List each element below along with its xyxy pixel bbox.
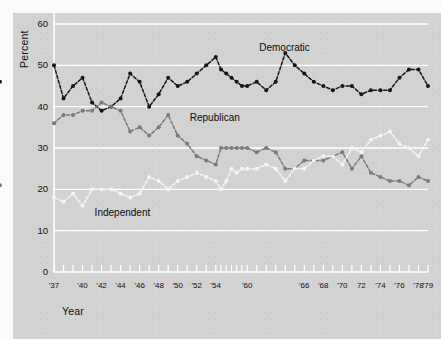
y-tick-label: 60 — [22, 18, 48, 29]
series-marker-independent — [219, 187, 223, 191]
chart-figure: Percent Year 6050403020100 '37'40'42'44'… — [0, 0, 441, 339]
series-marker-independent — [350, 146, 354, 150]
series-marker-republican — [274, 150, 278, 154]
series-marker-republican — [185, 142, 189, 146]
series-marker-republican — [426, 179, 430, 183]
series-marker-independent — [100, 187, 104, 191]
series-marker-democratic — [388, 88, 392, 92]
series-marker-independent — [359, 150, 363, 154]
series-marker-democratic — [52, 63, 56, 67]
series-marker-democratic — [426, 84, 430, 88]
series-marker-democratic — [90, 101, 94, 105]
series-marker-independent — [62, 200, 66, 204]
series-marker-independent — [293, 167, 297, 171]
series-marker-republican — [157, 125, 161, 129]
series-marker-democratic — [416, 67, 420, 71]
series-marker-independent — [166, 187, 170, 191]
series-marker-democratic — [235, 80, 239, 84]
series-marker-republican — [71, 113, 75, 117]
series-marker-democratic — [62, 96, 66, 100]
y-tick-label: 30 — [22, 142, 48, 153]
series-marker-democratic — [312, 80, 316, 84]
series-marker-republican — [416, 175, 420, 179]
series-marker-republican — [219, 146, 223, 150]
series-marker-democratic — [245, 84, 249, 88]
series-marker-independent — [147, 175, 151, 179]
series-marker-democratic — [293, 63, 297, 67]
series-marker-republican — [138, 125, 142, 129]
series-annotation: Republican — [190, 112, 240, 123]
series-marker-republican — [0, 183, 2, 187]
series-marker-republican — [378, 175, 382, 179]
series-marker-independent — [312, 158, 316, 162]
series-marker-republican — [240, 146, 244, 150]
series-marker-republican — [407, 183, 411, 187]
series-marker-independent — [128, 196, 132, 200]
series-marker-independent — [176, 179, 180, 183]
series-marker-independent — [71, 191, 75, 195]
series-marker-republican — [321, 158, 325, 162]
series-marker-independent — [52, 196, 56, 200]
series-marker-independent — [302, 167, 306, 171]
series-marker-democratic — [350, 84, 354, 88]
series-marker-republican — [214, 163, 218, 167]
series-marker-independent — [416, 154, 420, 158]
series-marker-democratic — [119, 96, 123, 100]
series-marker-independent — [185, 175, 189, 179]
series-marker-democratic — [147, 105, 151, 109]
series-marker-independent — [369, 138, 373, 142]
series-marker-democratic — [166, 76, 170, 80]
series-marker-independent — [426, 138, 430, 142]
series-marker-republican — [229, 146, 233, 150]
series-marker-independent — [397, 142, 401, 146]
series-line-democratic — [54, 53, 428, 111]
series-marker-independent — [283, 179, 287, 183]
series-marker-independent — [407, 146, 411, 150]
series-marker-independent — [90, 187, 94, 191]
series-marker-independent — [331, 154, 335, 158]
series-marker-republican — [340, 150, 344, 154]
series-marker-republican — [302, 158, 306, 162]
series-marker-independent — [255, 167, 259, 171]
y-tick-label: 10 — [22, 225, 48, 236]
series-marker-republican — [255, 150, 259, 154]
series-marker-republican — [166, 113, 170, 117]
series-marker-independent — [138, 191, 142, 195]
series-marker-democratic — [397, 76, 401, 80]
series-marker-independent — [264, 163, 268, 167]
series-marker-democratic — [340, 84, 344, 88]
series-marker-republican — [128, 129, 132, 133]
series-marker-republican — [195, 154, 199, 158]
series-marker-democratic — [378, 88, 382, 92]
series-marker-democratic — [407, 67, 411, 71]
series-marker-independent — [229, 167, 233, 171]
series-marker-democratic — [274, 80, 278, 84]
series-marker-independent — [81, 204, 85, 208]
series-marker-republican — [119, 109, 123, 113]
series-marker-republican — [388, 179, 392, 183]
y-tick-label: 50 — [22, 59, 48, 70]
x-tick-label: '79 — [417, 281, 439, 290]
series-marker-democratic — [176, 84, 180, 88]
series-marker-democratic — [229, 76, 233, 80]
series-marker-democratic — [71, 84, 75, 88]
series-marker-republican — [100, 101, 104, 105]
series-marker-independent — [235, 171, 239, 175]
series-marker-independent — [214, 179, 218, 183]
series-marker-democratic — [331, 88, 335, 92]
series-marker-independent — [321, 154, 325, 158]
series-marker-democratic — [81, 76, 85, 80]
series-marker-republican — [62, 113, 66, 117]
series-marker-independent — [388, 129, 392, 133]
series-marker-republican — [359, 154, 363, 158]
series-marker-independent — [157, 179, 161, 183]
series-marker-democratic — [128, 72, 132, 76]
series-marker-independent — [204, 175, 208, 179]
series-marker-republican — [264, 146, 268, 150]
series-marker-republican — [397, 179, 401, 183]
series-marker-republican — [369, 171, 373, 175]
series-marker-democratic — [240, 84, 244, 88]
x-tick-label: '60 — [236, 281, 258, 290]
x-tick-label: '37 — [43, 281, 65, 290]
series-marker-republican — [90, 109, 94, 113]
